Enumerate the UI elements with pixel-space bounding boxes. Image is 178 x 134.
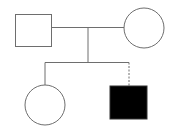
father-square <box>16 15 52 47</box>
daughter-circle <box>25 85 65 125</box>
son-affected-square <box>110 86 147 119</box>
pedigree-diagram <box>0 0 178 134</box>
mother-circle <box>124 8 164 48</box>
